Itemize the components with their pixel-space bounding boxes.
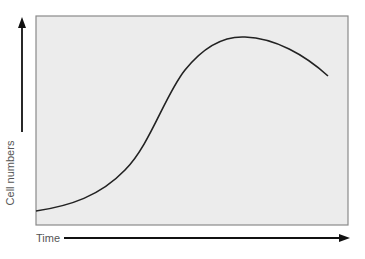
plot-area [36,16,348,225]
y-arrowhead-icon [18,17,26,28]
x-arrowhead-icon [339,234,350,242]
growth-chart [0,0,365,259]
y-axis-label: Cell numbers [2,133,18,213]
x-axis-label: Time [36,231,60,245]
